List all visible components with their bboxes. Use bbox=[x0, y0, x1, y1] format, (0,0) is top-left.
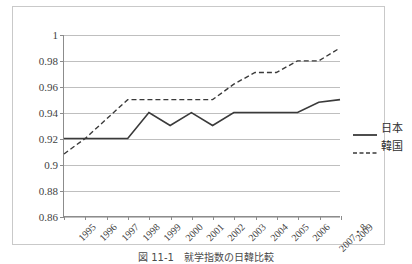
x-axis-tick bbox=[277, 216, 278, 220]
x-axis-tick-label: 2004 bbox=[269, 222, 290, 243]
x-axis-tick bbox=[171, 216, 172, 220]
chart-screenshot: 10.980.960.940.920.90.880.86 19951996199… bbox=[0, 0, 412, 264]
figure-caption: 図 11-1 就学指数の日韓比較 bbox=[0, 252, 412, 264]
x-axis-tick bbox=[128, 216, 129, 220]
series-line-japan bbox=[64, 100, 340, 139]
x-axis-tick-label: 2000 bbox=[183, 222, 204, 243]
x-axis-tick bbox=[192, 216, 193, 220]
legend-line-swatch bbox=[353, 143, 377, 151]
legend-line-swatch bbox=[353, 125, 377, 133]
x-axis-tick-label: 1996 bbox=[98, 222, 119, 243]
figure-frame: 10.980.960.940.920.90.880.86 19951996199… bbox=[12, 6, 385, 245]
x-axis-tick-label: 1995 bbox=[77, 222, 98, 243]
y-axis-tick-label: 1 bbox=[53, 30, 59, 41]
x-axis-tick bbox=[213, 216, 214, 220]
legend-item: 韓国 bbox=[353, 141, 403, 152]
plot-area: 10.980.960.940.920.90.880.86 19951996199… bbox=[63, 35, 340, 217]
x-axis-tick bbox=[64, 216, 65, 220]
y-axis-tick-label: 0.98 bbox=[39, 56, 58, 67]
x-axis-tick-label: 1999 bbox=[162, 222, 183, 243]
x-axis-tick-label: 2003 bbox=[247, 222, 268, 243]
series-plot bbox=[64, 35, 340, 216]
y-axis-tick-label: 0.9 bbox=[44, 160, 58, 171]
x-axis-tick-label: 2001 bbox=[205, 222, 226, 243]
y-axis-tick-label: 0.86 bbox=[39, 212, 58, 223]
x-axis-tick bbox=[149, 216, 150, 220]
y-axis-tick-label: 0.88 bbox=[39, 186, 58, 197]
x-axis-tick-label: 2002 bbox=[226, 222, 247, 243]
x-axis-tick bbox=[298, 216, 299, 220]
x-axis-tick-label: 1998 bbox=[141, 222, 162, 243]
x-axis-tick bbox=[107, 216, 108, 220]
y-axis-tick-label: 0.96 bbox=[39, 82, 58, 93]
x-axis-tick-label: 2005 bbox=[290, 222, 311, 243]
x-axis-tick-label: 1997 bbox=[119, 222, 140, 243]
chart-legend: 日本韓国 bbox=[353, 123, 403, 152]
legend-item: 日本 bbox=[353, 123, 403, 134]
y-axis-tick-label: 0.92 bbox=[39, 134, 58, 145]
x-axis-tick bbox=[234, 216, 235, 220]
legend-label: 日本 bbox=[381, 123, 403, 134]
x-axis-tick bbox=[320, 216, 321, 220]
x-axis-tick bbox=[85, 216, 86, 220]
x-axis-tick-label: 2006 bbox=[311, 222, 332, 243]
legend-label: 韓国 bbox=[381, 141, 403, 152]
x-axis-tick bbox=[256, 216, 257, 220]
x-axis-tick bbox=[341, 216, 342, 220]
y-axis-tick-label: 0.94 bbox=[39, 108, 58, 119]
